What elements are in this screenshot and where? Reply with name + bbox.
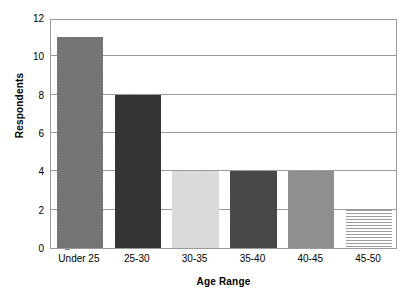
bar bbox=[230, 171, 276, 248]
bar bbox=[115, 95, 161, 248]
bar bbox=[288, 171, 334, 248]
x-axis-ticks: Under 2525-3030-3535-4040-4545-50 bbox=[50, 253, 397, 269]
y-tick-label: 2 bbox=[20, 206, 44, 216]
bar-series bbox=[51, 20, 396, 248]
plot-area bbox=[50, 19, 397, 249]
x-tick-label: Under 25 bbox=[50, 253, 108, 265]
bar bbox=[172, 171, 218, 248]
bar bbox=[57, 37, 103, 248]
bar-chart: Respondents 024681012 Under 2525-3030-35… bbox=[0, 0, 412, 298]
y-tick-label: 10 bbox=[20, 52, 44, 62]
y-tick-label: 8 bbox=[20, 91, 44, 101]
y-tick-label: 0 bbox=[20, 244, 44, 254]
x-tick-label: 45-50 bbox=[339, 253, 397, 265]
y-tick-label: 12 bbox=[20, 14, 44, 24]
x-tick-label: 30-35 bbox=[166, 253, 224, 265]
y-axis-ticks: 024681012 bbox=[20, 19, 44, 249]
x-tick-label: 25-30 bbox=[108, 253, 166, 265]
y-tick-mark bbox=[65, 249, 70, 250]
bar bbox=[346, 210, 392, 248]
y-tick-label: 4 bbox=[20, 167, 44, 177]
x-axis-title: Age Range bbox=[50, 276, 397, 287]
y-tick-label: 6 bbox=[20, 129, 44, 139]
x-tick-label: 40-45 bbox=[281, 253, 339, 265]
x-tick-label: 35-40 bbox=[224, 253, 282, 265]
